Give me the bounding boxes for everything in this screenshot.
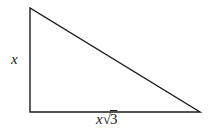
bottom-side-label: x√3 xyxy=(96,112,117,127)
triangle-figure: x x√3 xyxy=(0,0,213,139)
bottom-side-coefficient: x xyxy=(96,111,103,127)
radicand: 3 xyxy=(110,111,118,127)
left-side-label: x xyxy=(11,52,18,67)
left-side-variable: x xyxy=(11,51,18,67)
radical-sign: √ xyxy=(103,111,110,127)
triangle-shape xyxy=(30,8,200,112)
